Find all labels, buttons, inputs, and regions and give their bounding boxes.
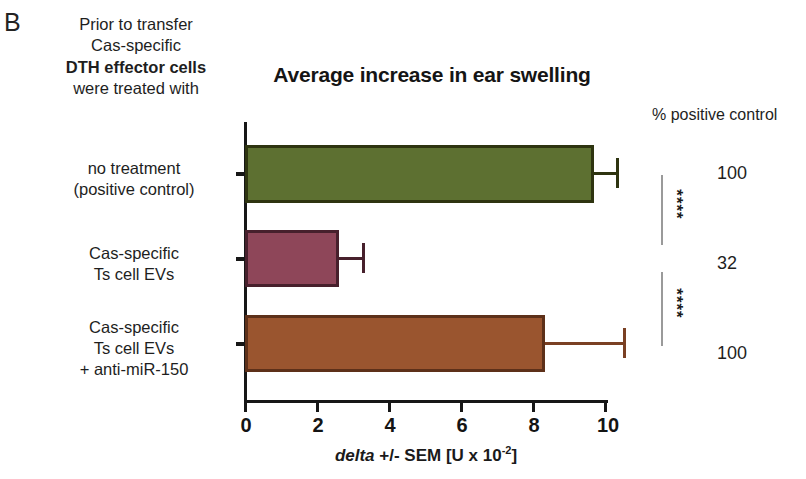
caption-line-3: DTH effector cells — [38, 57, 234, 78]
category-label-2-line-1: Cas-specific — [34, 317, 234, 338]
significance-stars-bottom: **** — [668, 276, 685, 332]
x-tick-6 — [460, 403, 463, 412]
category-label-1-line-2: Ts cell EVs — [34, 264, 234, 285]
x-tick-0 — [244, 403, 247, 412]
significance-line-top — [661, 175, 663, 245]
bar-ts-cell-evs-anti-mir-150 — [245, 315, 545, 372]
percent-positive-control-header: % positive control — [652, 106, 777, 124]
x-axis-title-rest: +/- SEM [U x 10 — [375, 446, 502, 465]
x-tick-label-10: 10 — [597, 414, 619, 437]
panel-letter: B — [4, 10, 21, 35]
error-bar-cap-0 — [616, 158, 619, 188]
x-axis-title-tail: ] — [511, 446, 517, 465]
category-label-2: Cas-specific Ts cell EVs + anti-miR-150 — [34, 317, 234, 380]
bar-no-treatment — [245, 145, 594, 203]
figure-panel: B Prior to transfer Cas-specific DTH eff… — [0, 0, 806, 479]
x-tick-label-0: 0 — [240, 414, 251, 437]
category-label-1-line-1: Cas-specific — [34, 243, 234, 264]
error-bar-line-2 — [545, 342, 625, 345]
error-bar-cap-1 — [362, 243, 365, 273]
caption-line-1: Prior to transfer — [38, 14, 234, 35]
category-label-0-line-2: (positive control) — [34, 179, 234, 200]
category-label-0: no treatment (positive control) — [34, 158, 234, 200]
x-tick-2 — [316, 403, 319, 412]
x-tick-label-6: 6 — [456, 414, 467, 437]
caption-line-4: were treated with — [38, 78, 234, 99]
x-tick-label-2: 2 — [312, 414, 323, 437]
x-tick-label-8: 8 — [528, 414, 539, 437]
significance-stars-top: **** — [668, 177, 685, 233]
treatment-caption: Prior to transfer Cas-specific DTH effec… — [38, 14, 234, 100]
chart-title: Average increase in ear swelling — [252, 63, 612, 87]
percent-value-2: 100 — [717, 343, 747, 364]
category-label-1: Cas-specific Ts cell EVs — [34, 243, 234, 285]
bar-ts-cell-evs — [245, 230, 339, 287]
x-tick-4 — [388, 403, 391, 412]
y-tick-1 — [236, 257, 245, 261]
y-tick-0 — [236, 172, 245, 176]
percent-value-0: 100 — [717, 163, 747, 184]
caption-line-2: Cas-specific — [38, 35, 234, 56]
x-tick-8 — [532, 403, 535, 412]
x-axis-title-delta: delta — [335, 446, 375, 465]
x-tick-label-4: 4 — [384, 414, 395, 437]
x-axis-title: delta +/- SEM [U x 10-2] — [244, 444, 608, 466]
y-tick-2 — [236, 342, 245, 346]
error-bar-line-1 — [339, 257, 364, 260]
error-bar-line-0 — [594, 172, 618, 175]
category-label-0-line-1: no treatment — [34, 158, 234, 179]
error-bar-cap-2 — [623, 328, 626, 358]
x-axis-title-exponent: -2 — [502, 444, 512, 456]
x-axis-line — [244, 400, 608, 403]
category-label-2-line-2: Ts cell EVs — [34, 338, 234, 359]
x-tick-10 — [604, 403, 607, 412]
significance-line-bottom — [661, 272, 663, 346]
category-label-2-line-3: + anti-miR-150 — [34, 359, 234, 380]
percent-value-1: 32 — [717, 253, 737, 274]
